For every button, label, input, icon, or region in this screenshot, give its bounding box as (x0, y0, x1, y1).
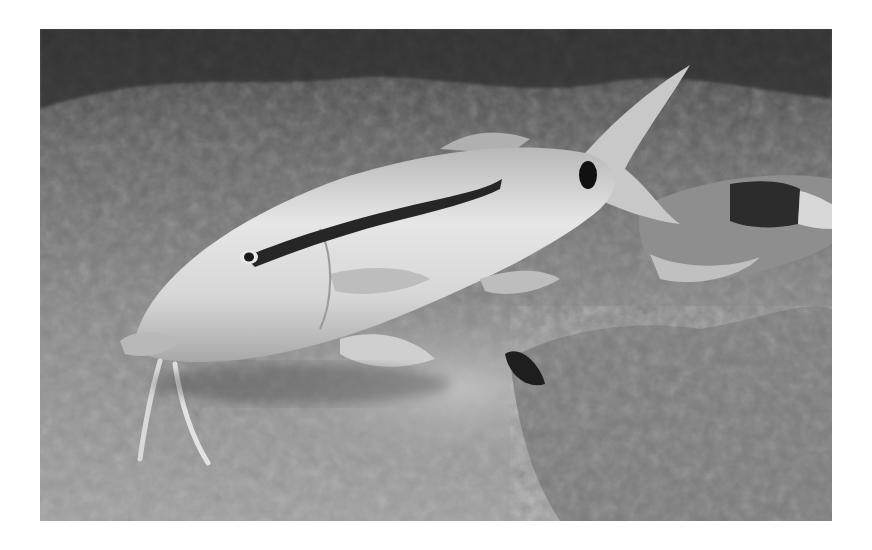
fish-shadow (150, 364, 450, 404)
pupil (244, 253, 254, 262)
photo-scene (40, 29, 832, 521)
caudal-spot (579, 161, 597, 189)
goatfish-photograph (40, 29, 832, 521)
coral-rock-texture (510, 306, 832, 521)
